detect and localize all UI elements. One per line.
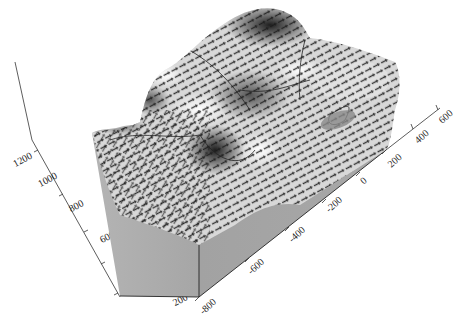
- x-tick-200: 200: [385, 151, 404, 169]
- y-axis: 400 600: [386, 105, 455, 150]
- surface-3d-chart: 1200 1000 800 600 400 200: [0, 0, 463, 319]
- x-tick--400: -400: [286, 224, 307, 244]
- z-tick-1200: 1200: [11, 150, 34, 169]
- y-tick-600: 600: [436, 107, 455, 125]
- x-tick-0: 0: [358, 175, 369, 187]
- y-tick-400: 400: [412, 127, 431, 145]
- z-tick-800: 800: [67, 197, 85, 214]
- x-tick--800: -800: [197, 296, 218, 316]
- z-tick-1000: 1000: [36, 170, 59, 189]
